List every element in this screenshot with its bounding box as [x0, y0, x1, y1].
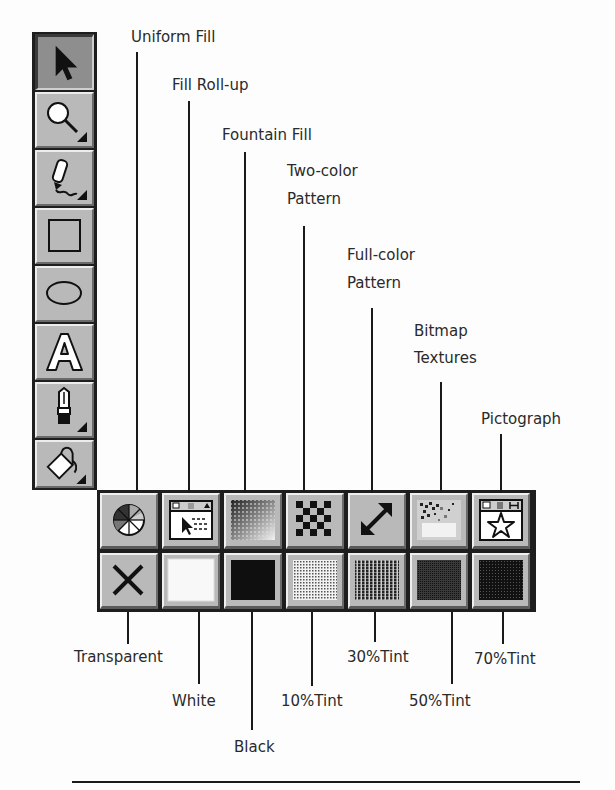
full-color-pattern-button[interactable]	[348, 493, 406, 549]
label-transparent: Transparent	[74, 646, 163, 668]
two-color-pattern-button[interactable]	[286, 493, 344, 549]
label-fountain-fill: Fountain Fill	[222, 124, 312, 146]
tint-30-button[interactable]	[348, 553, 406, 609]
checkerboard-icon	[288, 495, 342, 546]
uniform-fill-button[interactable]	[100, 493, 158, 549]
letter-a-icon	[37, 326, 92, 378]
zoom-tool-button[interactable]	[35, 92, 94, 148]
label-uniform-fill: Uniform Fill	[131, 26, 215, 48]
fill-rollup-button[interactable]	[162, 493, 220, 549]
tint-30-icon	[350, 555, 404, 606]
leader-full-color-pattern	[371, 308, 373, 493]
tint-10-button[interactable]	[286, 553, 344, 609]
x-icon	[102, 555, 156, 606]
pictograph-button[interactable]	[472, 493, 530, 549]
diagonal-arrow-icon	[350, 495, 404, 546]
leader-tint-70	[502, 612, 504, 644]
tint-10-icon	[288, 555, 342, 606]
star-pictograph-icon	[474, 495, 528, 546]
label-tint-30: 30%Tint	[347, 646, 409, 668]
label-fill-rollup: Fill Roll-up	[172, 74, 249, 96]
label-white: White	[172, 690, 216, 712]
leader-pictograph	[500, 434, 502, 493]
tint-50-icon	[412, 555, 466, 606]
label-full-color-pattern-line2: Pattern	[347, 272, 401, 294]
transparent-fill-button[interactable]	[100, 553, 158, 609]
texture-icon	[412, 495, 466, 546]
label-pictograph: Pictograph	[481, 408, 561, 430]
paint-bucket-icon	[37, 442, 92, 486]
leader-tint-50	[451, 612, 453, 684]
rollup-window-icon	[164, 495, 218, 546]
gradient-icon	[226, 495, 280, 546]
label-two-color-pattern-line2: Pattern	[287, 188, 341, 210]
pencil-icon	[37, 152, 92, 204]
fountain-fill-button[interactable]	[224, 493, 282, 549]
tint-70-icon	[474, 555, 528, 606]
leader-fountain-fill	[244, 152, 246, 493]
leader-black	[251, 612, 253, 730]
ellipse-icon	[37, 268, 92, 320]
label-bitmap-textures-line1: Bitmap	[414, 320, 468, 342]
bitmap-textures-button[interactable]	[410, 493, 468, 549]
fill-flyout-menu	[97, 490, 536, 612]
label-bitmap-textures-line2: Textures	[414, 347, 477, 369]
text-tool-button[interactable]	[35, 324, 94, 380]
leader-two-color-pattern	[303, 226, 305, 493]
white-fill-button[interactable]	[162, 553, 220, 609]
leader-tint-10	[311, 612, 313, 686]
tint-50-button[interactable]	[410, 553, 468, 609]
outline-tool-button[interactable]	[35, 382, 94, 438]
pencil-tool-button[interactable]	[35, 150, 94, 206]
ellipse-tool-button[interactable]	[35, 266, 94, 322]
magnifier-icon	[37, 94, 92, 146]
label-tint-70: 70%Tint	[474, 648, 536, 670]
label-tint-10: 10%Tint	[281, 690, 343, 712]
leader-tint-30	[374, 612, 376, 642]
color-wheel-icon	[102, 495, 156, 546]
white-swatch-icon	[164, 555, 218, 606]
black-fill-button[interactable]	[224, 553, 282, 609]
toolbox	[32, 32, 97, 490]
rectangle-tool-button[interactable]	[35, 208, 94, 264]
leader-uniform-fill	[136, 52, 138, 493]
bottom-rule-divider	[72, 781, 580, 783]
label-tint-50: 50%Tint	[409, 690, 471, 712]
leader-fill-rollup	[188, 101, 190, 493]
pick-tool-button[interactable]	[35, 34, 94, 90]
pen-nib-icon	[37, 384, 92, 436]
rectangle-icon	[37, 210, 92, 262]
leader-transparent	[127, 612, 129, 644]
label-full-color-pattern-line1: Full-color	[347, 244, 415, 266]
fill-tool-button[interactable]	[35, 440, 94, 488]
arrow-pointer-icon	[38, 37, 92, 88]
label-black: Black	[234, 736, 275, 758]
leader-white	[198, 612, 200, 684]
leader-bitmap-textures	[440, 382, 442, 493]
black-swatch-icon	[226, 555, 280, 606]
label-two-color-pattern-line1: Two-color	[287, 160, 358, 182]
tint-70-button[interactable]	[472, 553, 530, 609]
